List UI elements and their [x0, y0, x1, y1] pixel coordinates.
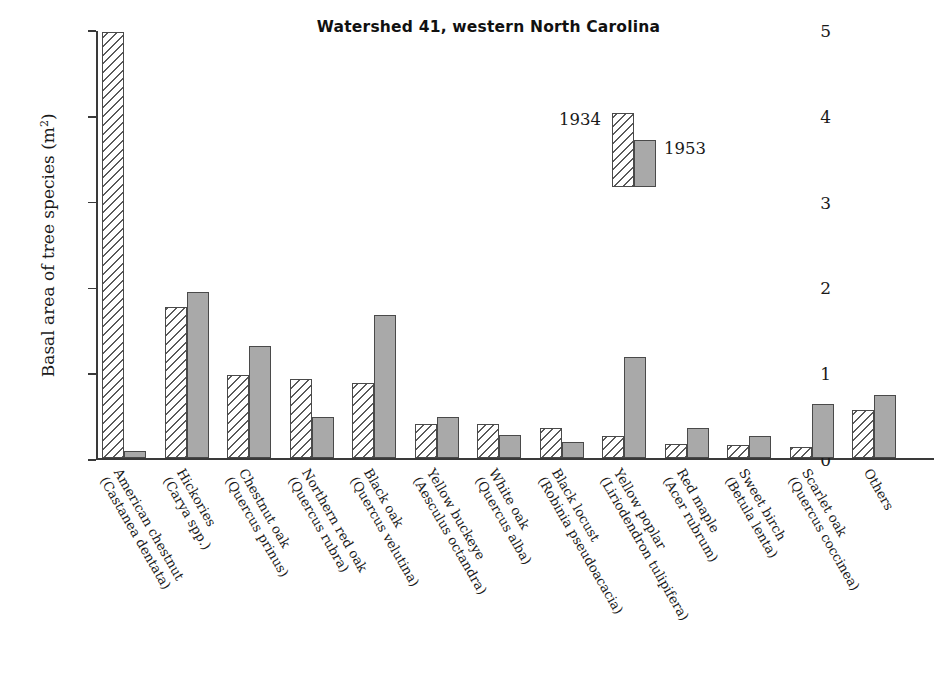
y-tick-label: 1: [791, 364, 831, 384]
bar-1934: [290, 379, 312, 459]
bar-1953: [687, 428, 709, 458]
y-axis-label-superscript: 2: [38, 120, 51, 127]
plot-area: 543210 1934 1953: [96, 31, 934, 460]
bar-1934: [227, 375, 249, 458]
bar-1953: [499, 435, 521, 458]
bar-1934: [165, 307, 187, 459]
y-axis-label-text: Basal area of tree species (m: [38, 127, 58, 377]
bar-1953: [312, 417, 334, 458]
legend-swatch-1953: [634, 140, 656, 187]
bar-1953: [749, 436, 771, 458]
bar-1934: [415, 424, 437, 458]
chart-figure: Watershed 41, western North Carolina Bas…: [0, 0, 947, 685]
y-tick-label: 4: [791, 107, 831, 127]
bar-1953: [562, 442, 584, 458]
bar-1953: [624, 357, 646, 458]
bar-1953: [249, 346, 271, 458]
legend-label-1953: 1953: [664, 139, 706, 158]
bar-1953: [124, 451, 146, 459]
y-axis-line: [96, 31, 98, 460]
y-tick-label: 3: [791, 193, 831, 213]
y-tick-mark: [88, 116, 96, 118]
bar-1934: [477, 424, 499, 458]
bar-1934: [790, 447, 812, 458]
x-label-common-name: Others: [861, 466, 897, 513]
y-axis-label: Basal area of tree species (m2): [38, 35, 59, 455]
legend-swatch-1934: [612, 113, 634, 187]
x-tick-label: Scarlet oak(Quercus coccinea): [785, 466, 876, 593]
y-tick-mark: [88, 30, 96, 32]
y-tick-mark: [88, 288, 96, 290]
legend-label-1934: 1934: [559, 110, 601, 129]
bar-1953: [812, 404, 834, 458]
bar-1934: [540, 428, 562, 458]
bar-1934: [852, 410, 874, 458]
bar-1934: [102, 32, 124, 458]
bar-1953: [187, 292, 209, 458]
y-tick-label: 5: [791, 21, 831, 41]
y-axis-label-tail: ): [38, 113, 58, 120]
y-tick-mark: [88, 373, 96, 375]
y-tick-mark: [88, 459, 96, 461]
bar-1953: [374, 315, 396, 458]
y-tick-mark: [88, 202, 96, 204]
bar-1934: [665, 444, 687, 459]
bar-1953: [437, 417, 459, 458]
bar-1953: [874, 395, 896, 458]
bar-1934: [352, 383, 374, 459]
bar-1934: [602, 436, 624, 458]
x-tick-label: Others: [861, 466, 897, 513]
bar-1934: [727, 445, 749, 459]
y-tick-label: 2: [791, 278, 831, 298]
x-tick-label: Hickories(Carya spp.): [160, 466, 228, 553]
